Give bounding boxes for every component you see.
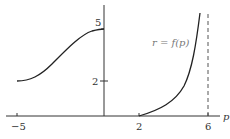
left-branch-curve [17, 29, 104, 81]
x-axis-label: p [223, 111, 230, 122]
curve-label: r = f(p) [152, 37, 190, 48]
y-tick-label-5: 5 [95, 17, 101, 28]
y-tick-label-2: 2 [92, 76, 98, 87]
x-tick-label-2: 2 [136, 121, 142, 132]
x-tick-label-6: 6 [205, 121, 211, 132]
f-of-p-curve [139, 13, 200, 116]
x-tick-label-neg5: −5 [11, 121, 26, 132]
function-plot: −5 2 6 2 5 p r = f(p) [0, 0, 230, 139]
